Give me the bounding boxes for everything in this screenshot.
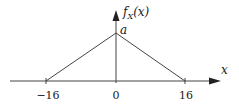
tick-label-neg16: −16 (36, 89, 59, 102)
triangular-pdf-chart: fX(x) a x −16 0 16 (0, 0, 239, 108)
x-axis-label: x (221, 63, 228, 77)
tick-label-zero: 0 (113, 89, 120, 102)
peak-label: a (120, 23, 127, 37)
tick-label-pos16: 16 (179, 89, 193, 102)
y-axis-label: fX(x) (122, 5, 150, 21)
x-axis-arrow-icon (209, 78, 221, 85)
y-axis-arrow-icon (113, 10, 120, 21)
